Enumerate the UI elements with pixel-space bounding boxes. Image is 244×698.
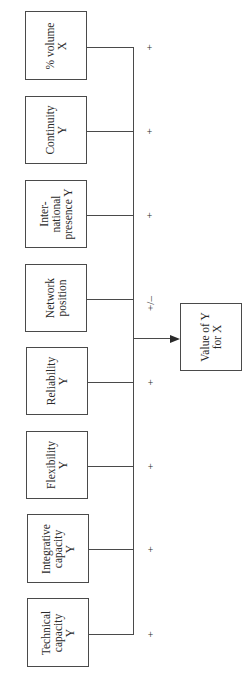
sign-flexibility: + [145, 463, 156, 469]
page-number-clipped: ▂▂▂ [70, 692, 91, 698]
sign-international-presence: + [144, 212, 155, 218]
input-label-volume: % volume X [44, 22, 68, 69]
arrow-right-icon [170, 335, 180, 343]
input-box-volume: % volume X [25, 11, 87, 80]
output-label-value: Value of Y for X [199, 312, 223, 361]
input-label-integrative-capacity: Integrative capacity Y [40, 524, 76, 574]
input-label-reliability: Reliability Y [45, 357, 69, 406]
connector-technical-capacity [89, 634, 134, 635]
input-box-continuity: Continuity Y [25, 96, 87, 164]
connector-network-position [87, 299, 133, 300]
output-arrow-shaft [133, 338, 171, 339]
bus-line [133, 47, 134, 635]
sign-volume: + [144, 44, 155, 50]
connector-flexibility [88, 466, 133, 467]
input-box-network-position: Network position [25, 264, 87, 332]
input-box-flexibility: Flexibility Y [26, 431, 88, 499]
connector-integrative-capacity [89, 549, 134, 550]
sign-continuity: + [144, 128, 155, 134]
input-box-integrative-capacity: Integrative capacity Y [27, 514, 89, 583]
sign-integrative-capacity: + [145, 546, 156, 552]
connector-volume [87, 47, 133, 48]
input-box-international-presence: Inter- national presence Y [25, 180, 87, 248]
sign-reliability: + [145, 379, 156, 385]
input-label-flexibility: Flexibility Y [45, 441, 69, 489]
input-label-network-position: Network position [44, 278, 68, 318]
input-label-technical-capacity: Technical capacity Y [40, 610, 76, 655]
connector-continuity [87, 131, 133, 132]
sign-technical-capacity: + [145, 631, 156, 637]
input-box-reliability: Reliability Y [26, 347, 88, 415]
output-box-value: Value of Y for X [180, 303, 242, 371]
input-box-technical-capacity: Technical capacity Y [27, 598, 89, 667]
input-label-continuity: Continuity Y [44, 105, 68, 154]
connector-international-presence [87, 215, 133, 216]
sign-network-position: +/– [145, 296, 156, 311]
connector-reliability [88, 382, 133, 383]
input-label-international-presence: Inter- national presence Y [38, 189, 74, 240]
